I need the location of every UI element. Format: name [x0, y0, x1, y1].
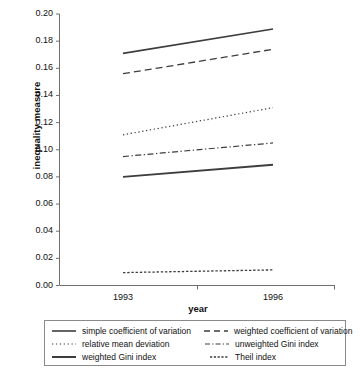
- legend-row: relative mean deviation unweighted Gini …: [45, 337, 345, 350]
- y-axis-tick-label: 0.20: [23, 9, 53, 18]
- legend-line-sample-dotted-icon: [51, 339, 77, 349]
- y-axis-ticks: [56, 14, 60, 286]
- legend-label: simple coefficient of variation: [82, 326, 191, 336]
- legend-line-sample-dashdot-icon: [204, 339, 230, 349]
- legend-line-sample-solid-icon: [51, 326, 77, 336]
- legend-item-weighted-gini-index: weighted Gini index: [45, 350, 202, 363]
- legend-row: weighted Gini index Theil index: [45, 350, 345, 363]
- legend-label: weighted coefficient of variation: [234, 326, 352, 336]
- y-axis-tick-label: 0.04: [23, 226, 53, 235]
- y-axis-tick-label: 0.18: [23, 36, 53, 45]
- legend-label: unweighted Gini index: [235, 339, 319, 349]
- legend-item-theil-index: Theil index: [202, 350, 345, 363]
- x-axis-tick-label: 1996: [243, 292, 303, 302]
- legend-row: simple coefficient of variation weighted…: [45, 324, 345, 337]
- x-axis-tick-label: 1993: [93, 292, 153, 302]
- chart-figure: 0.200.180.160.140.120.100.080.060.040.02…: [0, 0, 360, 374]
- data-series-line: [123, 29, 273, 53]
- legend-item-simple-coefficient-of-variation: simple coefficient of variation: [45, 324, 201, 337]
- y-axis-tick-label: 0.02: [23, 253, 53, 262]
- legend-label: weighted Gini index: [82, 352, 156, 362]
- data-series-line: [123, 49, 273, 73]
- x-axis-ticks: [198, 286, 335, 290]
- data-series-line: [123, 270, 273, 273]
- legend-label: Theil index: [235, 352, 276, 362]
- data-series-line: [123, 108, 273, 135]
- chart-plot-area: [0, 0, 360, 300]
- legend-line-sample-solid-thick-icon: [51, 352, 77, 362]
- legend-item-unweighted-gini-index: unweighted Gini index: [202, 337, 345, 350]
- legend-label: relative mean deviation: [82, 339, 169, 349]
- x-axis-title: year: [60, 303, 336, 314]
- y-axis-tick-label: 0.00: [23, 281, 53, 290]
- legend-line-sample-dashed-icon: [203, 326, 229, 336]
- legend-item-relative-mean-deviation: relative mean deviation: [45, 337, 202, 350]
- data-series-group: [123, 29, 273, 273]
- legend-item-weighted-coefficient-of-variation: weighted coefficient of variation: [201, 324, 345, 337]
- data-series-line: [123, 143, 273, 157]
- data-series-line: [123, 165, 273, 177]
- chart-legend: simple coefficient of variation weighted…: [44, 320, 346, 366]
- legend-line-sample-finedash-icon: [204, 352, 230, 362]
- y-axis-title: inequality measure: [31, 46, 42, 206]
